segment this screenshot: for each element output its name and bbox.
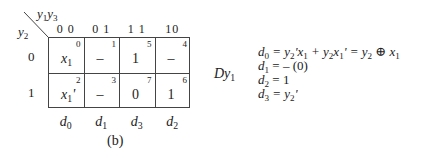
cell-value: 1 bbox=[132, 51, 139, 67]
cell-value: – bbox=[97, 51, 104, 67]
cell-value: 1 bbox=[168, 87, 175, 103]
kmap-cell: 4 – bbox=[156, 38, 192, 74]
minterm-number: 1 bbox=[112, 39, 117, 49]
column-header: 0 0 bbox=[48, 22, 84, 37]
cell-value: – bbox=[97, 87, 104, 103]
cell-value: 0 bbox=[132, 87, 139, 103]
row-header: 1 bbox=[28, 85, 35, 101]
minterm-number: 3 bbox=[112, 75, 117, 85]
column-variable-label: y1y3 bbox=[37, 6, 58, 23]
minterm-number: 6 bbox=[183, 75, 188, 85]
kmap-cell: 6 1 bbox=[156, 74, 192, 110]
kmap-cell: 3 – bbox=[85, 74, 121, 110]
cell-value: – bbox=[168, 51, 175, 67]
equation-d3: d3 = y2' bbox=[258, 86, 297, 103]
column-header: 1 1 bbox=[119, 22, 155, 37]
minterm-number: 5 bbox=[147, 39, 152, 49]
kmap-cell: 2 x1' bbox=[49, 74, 85, 110]
map-label-dy1: Dy1 bbox=[214, 66, 235, 83]
kmap-cell: 0 x1 bbox=[49, 38, 85, 74]
kmap-cell: 1 – bbox=[85, 38, 121, 74]
minterm-number: 7 bbox=[147, 75, 152, 85]
column-header: 10 bbox=[155, 22, 191, 37]
row-header: 0 bbox=[28, 49, 35, 65]
cell-value: x1' bbox=[61, 87, 75, 104]
minterm-number: 0 bbox=[76, 39, 81, 49]
column-header: 0 1 bbox=[84, 22, 120, 37]
karnaugh-map-grid: 0 x1 1 – 5 1 4 – 2 x1' 3 – 7 0 6 1 bbox=[48, 37, 190, 108]
cell-value: x1 bbox=[61, 51, 72, 68]
column-output-label: d1 bbox=[84, 114, 120, 131]
column-output-label: d0 bbox=[48, 114, 84, 131]
column-output-label: d3 bbox=[119, 114, 155, 131]
column-output-label: d2 bbox=[155, 114, 191, 131]
minterm-number: 2 bbox=[76, 75, 81, 85]
kmap-cell: 7 0 bbox=[120, 74, 156, 110]
row-variable-label: y2 bbox=[18, 24, 28, 41]
kmap-cell: 5 1 bbox=[120, 38, 156, 74]
figure-caption: (b) bbox=[107, 133, 123, 149]
minterm-number: 4 bbox=[183, 39, 188, 49]
